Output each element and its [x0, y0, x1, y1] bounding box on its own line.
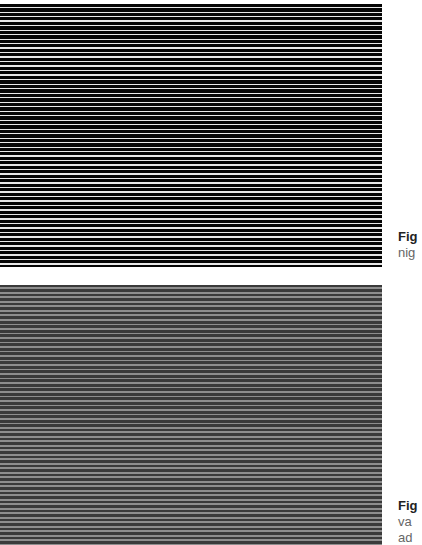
- caption-text: va: [398, 514, 422, 530]
- figure-caption-top: Fig nig: [398, 229, 422, 261]
- figure-caption-bottom: Fig va ad: [398, 498, 422, 545]
- figure-image-low-contrast-stripes: [0, 285, 382, 545]
- caption-label: Fig: [398, 498, 422, 514]
- caption-text: ad: [398, 530, 422, 545]
- figure-image-high-contrast-stripes: [0, 4, 382, 267]
- caption-text: nig: [398, 245, 422, 261]
- caption-label: Fig: [398, 229, 422, 245]
